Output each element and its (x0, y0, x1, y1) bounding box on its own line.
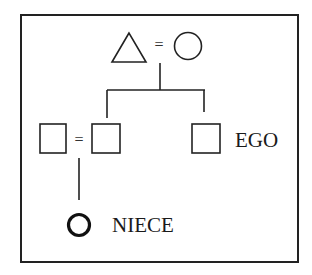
sibling-marriage-sign: = (74, 131, 83, 148)
parents-marriage-sign: = (154, 36, 163, 53)
kinship-diagram: = = EGO NIECE (0, 0, 312, 275)
sibling-square-icon (92, 124, 120, 153)
mother-circle-icon (175, 33, 202, 60)
niece-label: NIECE (112, 213, 174, 237)
niece-circle-icon (69, 215, 90, 236)
ego-square-icon (192, 124, 220, 153)
ego-label: EGO (235, 128, 278, 152)
sibling-spouse-square-icon (40, 124, 66, 153)
father-triangle-icon (112, 33, 146, 62)
